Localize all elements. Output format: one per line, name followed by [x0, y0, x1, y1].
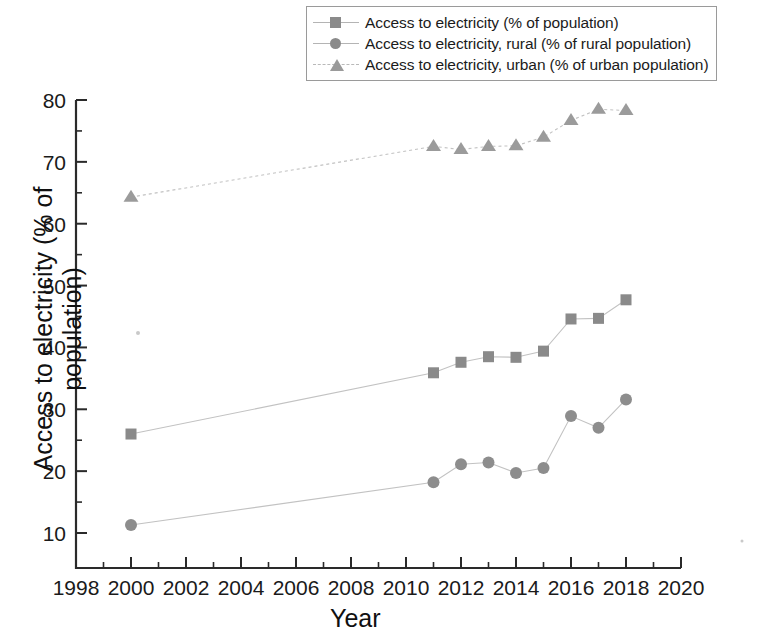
data-point-square [511, 352, 522, 363]
data-point-square [456, 357, 467, 368]
data-point-triangle [509, 138, 524, 150]
plot-area: 1998200020022004200620082010201220142016… [0, 0, 775, 643]
data-point-circle [428, 476, 440, 488]
x-tick-label: 2014 [493, 576, 540, 599]
data-point-square [593, 313, 604, 324]
x-tick-label: 2016 [548, 576, 595, 599]
axis-layer [76, 100, 681, 568]
data-point-circle [538, 462, 550, 474]
data-point-square [126, 429, 137, 440]
x-tick-label: 2006 [273, 576, 320, 599]
data-point-triangle [454, 142, 469, 154]
data-point-square [566, 313, 577, 324]
data-point-square [483, 351, 494, 362]
artifact-speck [136, 331, 140, 335]
data-point-triangle [481, 139, 496, 151]
data-point-circle [620, 393, 632, 405]
data-point-square [428, 367, 439, 378]
data-point-circle [510, 467, 522, 479]
x-tick-label: 2020 [658, 576, 705, 599]
data-point-circle [125, 519, 137, 531]
series-line-0 [131, 300, 626, 434]
x-tick-label: 2004 [218, 576, 265, 599]
data-point-triangle [124, 190, 139, 202]
label-layer: 1998200020022004200620082010201220142016… [43, 89, 705, 599]
artifact-speck-2 [741, 540, 744, 543]
data-point-circle [593, 422, 605, 434]
x-tick-label: 2008 [328, 576, 375, 599]
data-point-circle [483, 456, 495, 468]
data-point-triangle [619, 103, 634, 115]
chart-figure: Access to electricity (% of population) … [0, 0, 775, 643]
x-tick-label: 2010 [383, 576, 430, 599]
series-line-1 [131, 399, 626, 525]
x-axis-title: Year [330, 604, 381, 633]
data-point-circle [455, 458, 467, 470]
data-point-triangle [564, 113, 579, 125]
series-layer [124, 102, 634, 531]
axis-lines [76, 100, 681, 568]
y-tick-label: 80 [43, 89, 66, 112]
data-point-triangle [536, 130, 551, 142]
data-point-square [621, 294, 632, 305]
plot-svg: 1998200020022004200620082010201220142016… [0, 0, 775, 643]
data-point-square [538, 346, 549, 357]
series-line-2 [131, 109, 626, 197]
x-tick-label: 2012 [438, 576, 485, 599]
x-tick-label: 2018 [603, 576, 650, 599]
data-point-triangle [426, 139, 441, 151]
x-tick-label: 2002 [163, 576, 210, 599]
x-tick-label: 1998 [53, 576, 100, 599]
data-point-triangle [591, 102, 606, 114]
x-tick-label: 2000 [108, 576, 155, 599]
y-axis-title: Access to electricity (% of population) [29, 129, 87, 529]
data-point-circle [565, 410, 577, 422]
